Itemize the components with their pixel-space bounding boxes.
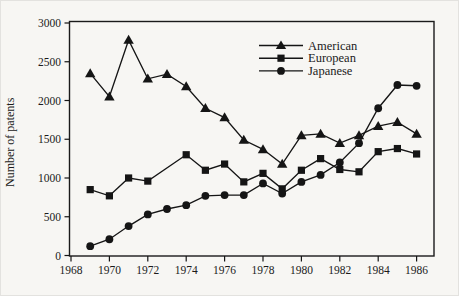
triangle-marker-icon	[335, 138, 345, 147]
square-marker-icon	[259, 170, 266, 177]
x-tick-label: 1974	[175, 264, 198, 276]
circle-marker-icon	[298, 178, 306, 186]
triangle-marker-icon	[85, 68, 95, 77]
triangle-marker-icon	[258, 144, 268, 153]
x-tick-label: 1970	[98, 264, 121, 276]
circle-marker-icon	[336, 159, 344, 167]
triangle-marker-icon	[411, 129, 421, 138]
circle-marker-icon	[125, 222, 133, 230]
square-marker-icon	[221, 160, 228, 167]
x-tick-label: 1976	[213, 264, 236, 276]
square-marker-icon	[277, 55, 284, 62]
y-tick-label: 2500	[38, 56, 61, 68]
square-marker-icon	[106, 192, 113, 199]
circle-marker-icon	[278, 190, 286, 198]
circle-marker-icon	[202, 192, 210, 200]
circle-marker-icon	[86, 242, 94, 250]
legend-item-japanese: Japanese	[259, 64, 353, 78]
series-japanese	[86, 81, 420, 250]
square-marker-icon	[183, 151, 190, 158]
circle-marker-icon	[259, 180, 267, 188]
triangle-marker-icon	[162, 69, 172, 78]
series-european	[87, 145, 421, 199]
square-marker-icon	[144, 178, 151, 185]
circle-marker-icon	[163, 205, 171, 213]
square-marker-icon	[87, 186, 94, 193]
x-tick-label: 1982	[328, 264, 351, 276]
x-tick-label: 1978	[252, 264, 275, 276]
square-marker-icon	[298, 167, 305, 174]
y-tick-label: 0	[55, 250, 61, 262]
plot-frame	[70, 22, 435, 257]
series-american	[85, 35, 422, 168]
circle-marker-icon	[317, 171, 325, 179]
square-marker-icon	[375, 148, 382, 155]
y-tick-label: 2000	[38, 95, 61, 107]
x-tick-label: 1984	[367, 264, 390, 276]
y-tick-label: 3000	[38, 17, 61, 29]
square-marker-icon	[125, 174, 132, 181]
y-tick-label: 500	[44, 211, 62, 223]
x-tick-label: 1986	[405, 264, 428, 276]
circle-marker-icon	[413, 82, 421, 90]
circle-marker-icon	[394, 81, 402, 89]
x-tick-label: 1980	[290, 264, 313, 276]
square-marker-icon	[355, 168, 362, 175]
y-tick-label: 1500	[38, 133, 61, 145]
y-axis-label: Number of patents	[3, 97, 17, 187]
square-marker-icon	[413, 150, 420, 157]
triangle-marker-icon	[315, 129, 325, 138]
square-marker-icon	[202, 167, 209, 174]
series-layer	[85, 35, 422, 250]
triangle-marker-icon	[277, 159, 287, 168]
circle-marker-icon	[221, 191, 229, 199]
y-tick-label: 1000	[38, 172, 61, 184]
square-marker-icon	[394, 145, 401, 152]
legend-label-japanese: Japanese	[308, 64, 353, 78]
x-tick-label: 1968	[60, 264, 83, 276]
circle-marker-icon	[144, 211, 152, 219]
circle-marker-icon	[106, 235, 114, 243]
axis-ticks: 0500100015002000250030001968197019721974…	[38, 17, 428, 276]
circle-marker-icon	[374, 104, 382, 112]
triangle-marker-icon	[181, 81, 191, 90]
legend: American European Japanese	[259, 39, 358, 78]
patents-line-chart: 0500100015002000250030001968197019721974…	[0, 0, 459, 296]
circle-marker-icon	[240, 191, 248, 199]
square-marker-icon	[240, 178, 247, 185]
circle-marker-icon	[355, 139, 363, 147]
circle-marker-icon	[277, 67, 285, 75]
series-line	[90, 40, 416, 164]
series-line	[90, 85, 416, 246]
square-marker-icon	[317, 155, 324, 162]
x-tick-label: 1972	[136, 264, 159, 276]
patents-figure: 0500100015002000250030001968197019721974…	[0, 0, 459, 296]
triangle-marker-icon	[123, 35, 133, 44]
square-marker-icon	[336, 166, 343, 173]
triangle-marker-icon	[392, 117, 402, 126]
circle-marker-icon	[182, 201, 190, 209]
triangle-marker-icon	[219, 112, 229, 121]
